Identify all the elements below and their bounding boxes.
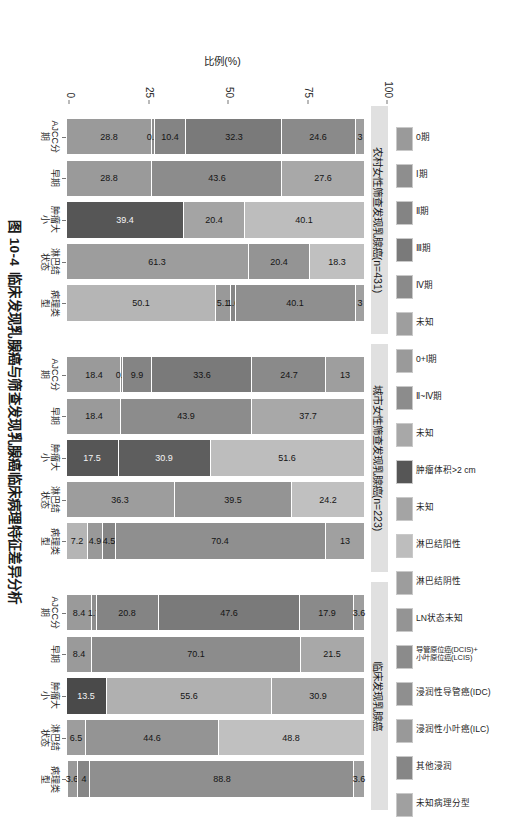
stacked-bar[interactable]: 36.339.524.2 — [66, 482, 364, 517]
bar-segment[interactable]: 47.6 — [158, 595, 300, 630]
legend-item[interactable]: 浸润性导管癌(IDC) — [396, 675, 516, 712]
bar-segment[interactable]: 8.4 — [66, 637, 91, 672]
bar-segment[interactable]: 70.1 — [91, 637, 300, 672]
legend-item[interactable]: Ⅰ期 — [396, 157, 516, 194]
bar-segment[interactable]: 39.4 — [66, 202, 184, 237]
bar-segment[interactable]: 6.5 — [66, 720, 85, 755]
bar-segment[interactable]: 37.7 — [251, 399, 363, 434]
bar-segment[interactable]: 44.6 — [85, 720, 218, 755]
stacked-bar[interactable]: 17.530.951.6 — [66, 440, 364, 475]
legend-item-label: Ⅱ期 — [416, 207, 526, 219]
x-axis-tick-label: 肿瘤大小 — [39, 678, 66, 713]
legend-item[interactable]: 未知 — [396, 305, 516, 342]
bar-segment[interactable]: 9.9 — [122, 357, 152, 392]
legend-item[interactable]: LN状态未知 — [396, 601, 516, 638]
bar-segment[interactable]: 20.4 — [183, 202, 244, 237]
bar-segment[interactable]: 27.6 — [281, 161, 363, 196]
bar-segment[interactable]: 3.6 — [353, 595, 364, 630]
bar-segment[interactable]: 17.9 — [300, 595, 353, 630]
stacked-bar[interactable]: 8.470.121.5 — [66, 637, 364, 672]
bar-value-label: 21.5 — [323, 650, 341, 659]
bar-segment[interactable]: 7.2 — [66, 523, 87, 558]
bar-segment[interactable]: 4.9 — [87, 523, 102, 558]
stacked-bar[interactable]: 61.320.418.3 — [66, 244, 364, 279]
bar-segment[interactable]: 3 — [355, 119, 364, 154]
bar-segment[interactable]: 40.1 — [244, 202, 364, 237]
legend-item[interactable]: 0期 — [396, 120, 516, 157]
bar-segment[interactable]: 32.3 — [185, 119, 281, 154]
bar-segment[interactable]: 50.1 — [66, 285, 215, 320]
stacked-bar[interactable]: 39.420.440.1 — [66, 202, 364, 237]
bar-segment[interactable]: 3.6 — [353, 761, 364, 796]
stacked-bar[interactable]: 50.15.11.640.13 — [66, 285, 364, 320]
bar-segment[interactable]: 61.3 — [66, 244, 249, 279]
bar-segment[interactable]: 3 — [355, 285, 364, 320]
bar-segment[interactable]: 4.5 — [102, 523, 115, 558]
bar-segment[interactable]: 4 — [77, 761, 89, 796]
bar-segment[interactable]: 43.9 — [120, 399, 251, 434]
stacked-bar[interactable]: 8.41.720.847.617.93.6 — [66, 595, 364, 630]
bar-segment[interactable]: 20.8 — [96, 595, 158, 630]
bar-segment[interactable]: 33.6 — [151, 357, 251, 392]
panel-title: 农村女性筛查发现乳腺癌(n=431) — [370, 106, 388, 334]
legend-item[interactable]: Ⅲ期 — [396, 231, 516, 268]
y-axis-title: 比例(%) — [204, 53, 240, 68]
legend-item[interactable]: 0+Ⅰ期 — [396, 342, 516, 379]
legend-item[interactable]: 肿瘤体积>2 cm — [396, 453, 516, 490]
bar-segment[interactable]: 20.4 — [248, 244, 309, 279]
legend-item-label: Ⅱ~Ⅳ期 — [416, 392, 526, 404]
bar-segment[interactable]: 40.1 — [235, 285, 355, 320]
x-axis-tick-label: 淋巴结 状态 — [39, 482, 66, 517]
bar-segment[interactable]: 3.6 — [67, 761, 78, 796]
stacked-bar[interactable]: 28.843.627.6 — [66, 161, 364, 196]
stacked-bar[interactable]: 3.6488.83.6 — [66, 761, 364, 796]
legend-item[interactable]: 淋巴结阳性 — [396, 527, 516, 564]
bar-segment[interactable]: 48.8 — [218, 720, 364, 755]
legend-item[interactable]: 导管原位癌(DCIS)+ 小叶原位癌(LCIS) — [396, 638, 516, 675]
bar-segment[interactable]: 30.9 — [272, 678, 364, 713]
legend-item[interactable]: 其他浸润 — [396, 749, 516, 786]
bar-segment[interactable]: 36.3 — [66, 482, 174, 517]
x-axis: AJCC分期早期肿瘤大小淋巴结 状态病理类型 — [36, 344, 66, 572]
stacked-bar[interactable]: 18.443.937.7 — [66, 399, 364, 434]
bar-segment[interactable]: 24.2 — [291, 482, 363, 517]
bar-segment[interactable]: 10.4 — [154, 119, 185, 154]
legend-item[interactable]: 浸润性小叶癌(ILC) — [396, 712, 516, 749]
legend-item[interactable]: 未知 — [396, 416, 516, 453]
bar-segment[interactable]: 21.5 — [300, 637, 364, 672]
bar-segment[interactable]: 13.5 — [66, 678, 106, 713]
bar-value-label: 13 — [340, 370, 350, 379]
bar-segment[interactable]: 18.4 — [66, 399, 121, 434]
bar-segment[interactable]: 39.5 — [174, 482, 292, 517]
legend-item[interactable]: 淋巴结阴性 — [396, 564, 516, 601]
stacked-bar[interactable]: 7.24.94.570.413 — [66, 523, 364, 558]
bar-segment[interactable]: 88.8 — [89, 761, 353, 796]
bar-segment[interactable]: 28.8 — [66, 119, 152, 154]
legend-item[interactable]: 未知病理分型 — [396, 786, 516, 823]
y-axis-tick: 0 — [65, 92, 76, 98]
legend-item[interactable]: Ⅱ期 — [396, 194, 516, 231]
bar-segment[interactable]: 30.9 — [118, 440, 210, 475]
bar-segment[interactable]: 70.4 — [115, 523, 325, 558]
legend-item[interactable]: Ⅳ期 — [396, 268, 516, 305]
bar-segment[interactable]: 51.6 — [210, 440, 364, 475]
bar-segment[interactable]: 17.5 — [66, 440, 118, 475]
stacked-bar[interactable]: 6.544.648.8 — [66, 720, 364, 755]
bar-segment[interactable]: 18.4 — [66, 357, 121, 392]
legend-item-label: 浸润性小叶癌(ILC) — [416, 725, 526, 737]
stacked-bar[interactable]: 28.80.910.432.324.63 — [66, 119, 364, 154]
legend-item[interactable]: Ⅱ~Ⅳ期 — [396, 379, 516, 416]
bar-segment[interactable]: 28.8 — [66, 161, 152, 196]
stacked-bar[interactable]: 13.555.630.9 — [66, 678, 364, 713]
stacked-bar[interactable]: 18.40.49.933.624.713 — [66, 357, 364, 392]
bar-segment[interactable]: 55.6 — [106, 678, 272, 713]
bar-segment[interactable]: 24.6 — [281, 119, 354, 154]
legend-item[interactable]: 未知 — [396, 490, 516, 527]
bar-segment[interactable]: 18.3 — [309, 244, 364, 279]
bar-value-label: 39.5 — [224, 495, 242, 504]
bar-segment[interactable]: 13 — [325, 523, 364, 558]
bar-segment[interactable]: 43.6 — [151, 161, 281, 196]
legend-swatch — [396, 423, 413, 447]
bar-segment[interactable]: 24.7 — [251, 357, 325, 392]
bar-segment[interactable]: 13 — [325, 357, 364, 392]
